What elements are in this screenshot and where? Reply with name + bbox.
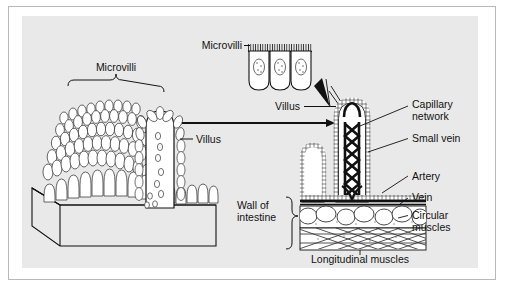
microvilli-bracket-label: Microvilli <box>96 61 136 73</box>
artery-leader <box>382 176 408 193</box>
villus-left-label: Villus <box>196 133 221 145</box>
wall-of-intestine-label-line1: Wall of <box>237 199 269 211</box>
capillary-network-label-line1: Capillary <box>412 98 454 110</box>
microvilli-bracket <box>68 74 164 92</box>
capillary-network-label-line2: network <box>412 110 450 122</box>
left-perspective-block <box>32 100 218 246</box>
small-vein-leader <box>368 139 408 153</box>
figure-root: Microvilli Villus <box>0 0 508 289</box>
epithelial-cell-inset <box>248 44 312 90</box>
wall-of-intestine-label-line2: intestine <box>237 211 276 223</box>
left-block-central-villus <box>135 107 186 209</box>
villi-field <box>43 100 218 204</box>
artery-label: Artery <box>412 170 441 182</box>
diagram-canvas: Microvilli Villus <box>0 0 508 289</box>
microvilli-inset-label: Microvilli <box>202 39 242 51</box>
vein-label: Vein <box>412 191 433 203</box>
wall-of-intestine-brace <box>286 197 298 249</box>
circular-muscles-label-line2: muscles <box>412 221 451 233</box>
villus-right-label: Villus <box>275 100 300 112</box>
circular-muscles-label-line1: Circular <box>412 209 449 221</box>
small-vein-label: Small vein <box>412 132 461 144</box>
